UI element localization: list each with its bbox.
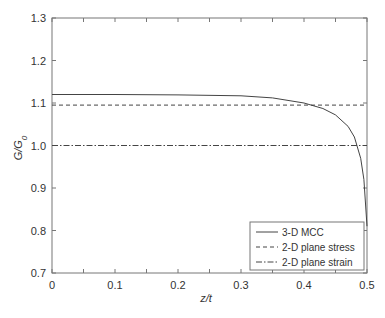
y-axis-label: G/G0 — [12, 135, 29, 160]
y-tick-label: 0.9 — [31, 182, 46, 194]
legend-label: 2-D plane stress — [282, 242, 355, 253]
x-tick-label: 0.4 — [296, 279, 311, 291]
series-lines — [52, 95, 367, 227]
y-tick-label: 1.0 — [31, 140, 46, 152]
x-tick-label: 0.5 — [359, 279, 374, 291]
y-tick-label: 0.8 — [31, 225, 46, 237]
legend-label: 3-D MCC — [282, 227, 324, 238]
x-tick-label: 0 — [49, 279, 55, 291]
x-tick-label: 0.3 — [233, 279, 248, 291]
y-tick-label: 1.2 — [31, 55, 46, 67]
legend: 3-D MCC2-D plane stress2-D plane strain — [250, 222, 364, 270]
y-tick-label: 1.1 — [31, 97, 46, 109]
y-axis-label-subscript: 0 — [20, 135, 29, 140]
y-tick-label: 1.3 — [31, 12, 46, 24]
y-tick-label: 0.7 — [31, 267, 46, 279]
x-tick-label: 0.1 — [107, 279, 122, 291]
series-3-d-mcc — [52, 95, 367, 227]
x-axis-label: z/t — [199, 292, 213, 304]
legend-label: 2-D plane strain — [282, 257, 353, 268]
chart: 00.10.20.30.40.50.70.80.91.01.11.21.3 3-… — [0, 0, 385, 318]
x-tick-label: 0.2 — [170, 279, 185, 291]
